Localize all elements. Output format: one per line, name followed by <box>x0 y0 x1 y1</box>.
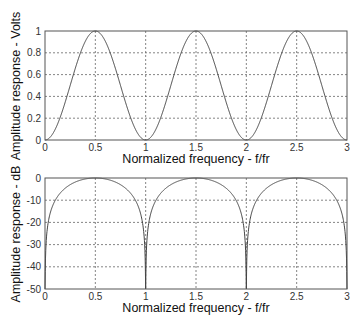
amplitude-linear-plot: 00.511.522.53 00.20.40.60.81 Normalized … <box>9 12 350 166</box>
y-tick: -10 <box>27 195 42 206</box>
y-tick: -50 <box>27 284 42 295</box>
x-axis-label: Normalized frequency - f/fr <box>122 152 269 166</box>
x-tick: 0.5 <box>88 291 102 302</box>
y-tick: 0 <box>35 173 41 184</box>
y-tick: -30 <box>27 239 42 250</box>
x-tick: 3 <box>344 291 350 302</box>
x-tick: 0 <box>42 291 48 302</box>
y-tick-labels: 00.20.40.60.81 <box>27 26 41 146</box>
y-tick: 0.2 <box>27 113 41 124</box>
y-axis-label: Amplitude response - Volts <box>9 12 23 161</box>
y-tick: -40 <box>27 261 42 272</box>
x-tick: 2.5 <box>290 142 304 153</box>
amplitude-db-plot: 00.511.522.53 0-10-20-30-40-50 Normalize… <box>9 166 350 315</box>
x-axis-label: Normalized frequency - f/fr <box>122 301 269 315</box>
y-tick: 0 <box>35 135 41 146</box>
y-tick: -20 <box>27 217 42 228</box>
grid <box>45 178 347 289</box>
y-tick: 0.6 <box>27 69 41 80</box>
y-tick: 0.8 <box>27 47 41 58</box>
x-tick: 0 <box>42 142 48 153</box>
figure: 00.511.522.53 00.20.40.60.81 Normalized … <box>0 0 363 328</box>
grid <box>45 31 347 140</box>
y-axis-label: Amplitude response - dB <box>9 166 23 303</box>
y-tick: 1 <box>35 26 41 37</box>
y-tick-labels: 0-10-20-30-40-50 <box>27 173 42 295</box>
y-tick: 0.4 <box>27 91 41 102</box>
x-tick: 3 <box>344 142 350 153</box>
x-tick: 2.5 <box>290 291 304 302</box>
x-tick: 0.5 <box>88 142 102 153</box>
